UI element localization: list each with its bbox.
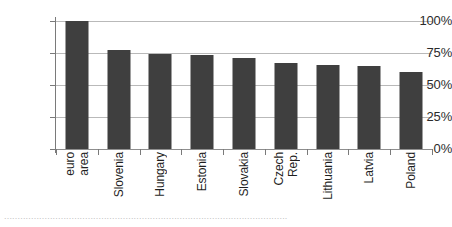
bar-slot: [56, 21, 98, 149]
x-label-line: area: [77, 152, 91, 176]
x-label-line: Hungary: [153, 152, 167, 197]
x-label-poland: Poland: [390, 152, 432, 214]
bar-slot: [223, 21, 265, 149]
x-label-line: Poland: [404, 152, 418, 189]
bar-czech-rep: [274, 63, 297, 149]
cropped-caption-text: ........................................…: [4, 218, 288, 221]
cropped-caption-strip: ........................................…: [0, 218, 452, 227]
x-label-line: Slovenia: [112, 152, 126, 197]
x-label-line: Lithuania: [321, 152, 335, 200]
bar-euro-area: [65, 21, 88, 149]
x-label-estonia: Estonia: [181, 152, 223, 214]
x-label-slovenia: Slovenia: [98, 152, 140, 214]
bar-slot: [348, 21, 390, 149]
x-tick: [432, 149, 433, 155]
bar-slovenia: [107, 50, 130, 149]
bar-slot: [390, 21, 432, 149]
x-label-line: Czech: [272, 152, 286, 186]
x-label-line: Latvia: [362, 152, 376, 183]
x-label-line: Rep.: [286, 152, 300, 177]
bar-slot: [181, 21, 223, 149]
bar-group: [56, 21, 432, 149]
bar-chart: 0%25%50%75%100% euroareaSloveniaHungaryE…: [0, 0, 452, 227]
x-label-hungary: Hungary: [140, 152, 182, 214]
bar-slot: [98, 21, 140, 149]
x-label-line: Slovakia: [237, 152, 251, 197]
x-label-slovakia: Slovakia: [223, 152, 265, 214]
bar-slovakia: [232, 58, 255, 149]
x-label-line: euro: [63, 152, 77, 176]
bar-slot: [265, 21, 307, 149]
gridline-0: [56, 149, 432, 150]
x-label-euro-area: euroarea: [56, 152, 98, 214]
x-label-line: Estonia: [195, 152, 209, 191]
bar-hungary: [149, 54, 172, 149]
bar-poland: [400, 72, 423, 149]
x-axis-labels: euroareaSloveniaHungaryEstoniaSlovakiaCz…: [56, 152, 432, 214]
bar-slot: [307, 21, 349, 149]
x-label-latvia: Latvia: [348, 152, 390, 214]
bar-lithuania: [316, 65, 339, 149]
bar-slot: [140, 21, 182, 149]
x-label-lithuania: Lithuania: [307, 152, 349, 214]
bar-estonia: [191, 55, 214, 149]
bar-latvia: [358, 66, 381, 149]
x-label-czech-rep: CzechRep.: [265, 152, 307, 214]
